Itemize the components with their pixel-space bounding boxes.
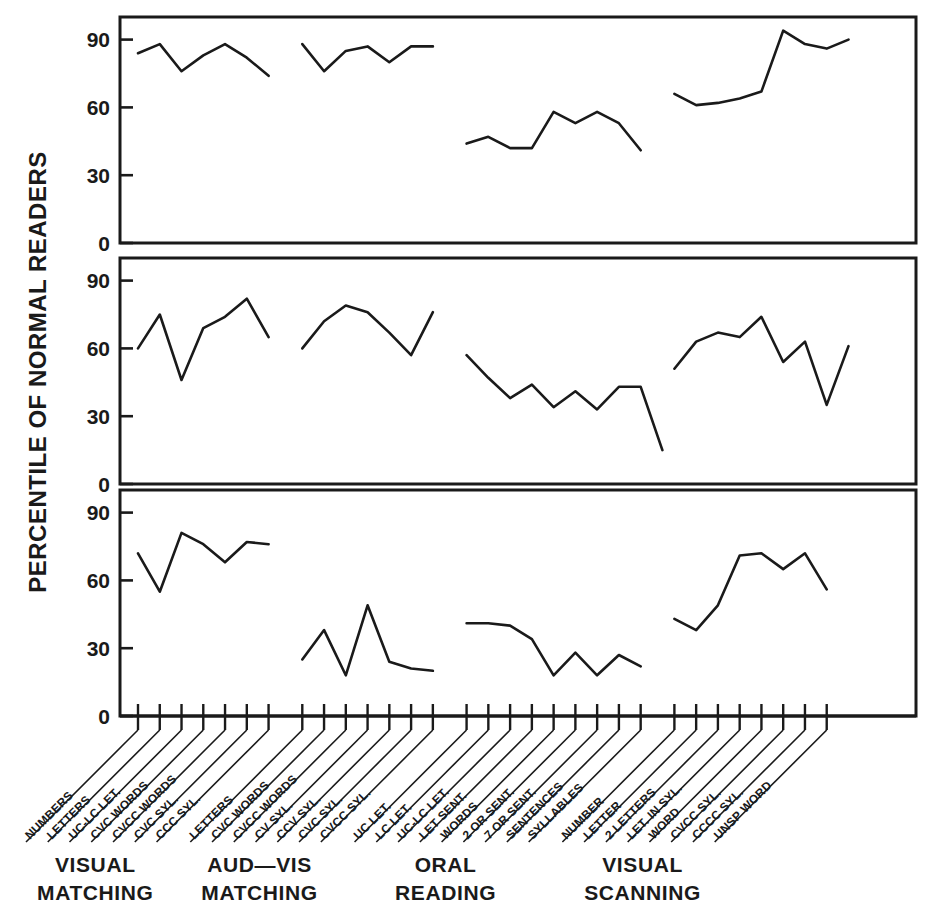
panel-frame-1 <box>120 17 916 243</box>
data-line-panel3-group1 <box>138 533 269 592</box>
data-line-panel1-group4 <box>674 31 848 106</box>
data-line-panel2-group1 <box>138 299 269 380</box>
group-label-4: VISUALSCANNING <box>584 853 701 904</box>
group-label-line1: ORAL <box>415 853 477 876</box>
group-label-line2: SCANNING <box>584 881 701 904</box>
data-line-panel3-group3 <box>467 623 641 675</box>
x-axis: NUMBERSLETTERSUC-LC LET.CVC WORDSCVCC WO… <box>22 704 916 842</box>
data-line-panel3-group2 <box>302 605 433 675</box>
group-labels: VISUALMATCHINGAUD—VISMATCHINGORALREADING… <box>37 853 701 904</box>
y-tick-label: 90 <box>87 28 110 51</box>
data-line-panel1-group1 <box>138 44 269 76</box>
group-label-line2: READING <box>395 881 496 904</box>
y-tick-label: 60 <box>87 569 110 592</box>
y-tick-label: 60 <box>87 337 110 360</box>
data-line-panel1-group3 <box>467 112 641 150</box>
group-label-line1: AUD—VIS <box>207 853 312 876</box>
group-label-line2: MATCHING <box>37 881 153 904</box>
y-tick-label: 90 <box>87 269 110 292</box>
chart-root: PERCENTILE OF NORMAL READERS 03060900306… <box>0 0 940 920</box>
y-tick-label: 0 <box>98 232 110 255</box>
group-label-1: VISUALMATCHING <box>37 853 153 904</box>
data-line-panel1-group2 <box>302 44 433 71</box>
line-chart-svg: 030609003060900306090 NUMBERSLETTERSUC-L… <box>0 0 940 920</box>
panel-frame-2 <box>120 258 916 484</box>
panel-frame-3 <box>120 490 916 716</box>
data-line-panel2-group3 <box>467 355 663 450</box>
group-label-line2: MATCHING <box>201 881 317 904</box>
data-line-panel2-group2 <box>302 306 433 356</box>
data-line-panel2-group4 <box>674 317 848 405</box>
group-label-line1: VISUAL <box>55 853 136 876</box>
y-tick-label: 0 <box>98 705 110 728</box>
y-tick-label: 30 <box>87 637 110 660</box>
y-tick-label: 30 <box>87 405 110 428</box>
group-label-2: AUD—VISMATCHING <box>201 853 317 904</box>
y-tick-label: 0 <box>98 473 110 496</box>
y-tick-label: 30 <box>87 164 110 187</box>
y-tick-label: 60 <box>87 96 110 119</box>
y-tick-label: 90 <box>87 501 110 524</box>
panel-group: 030609003060900306090 <box>87 17 916 728</box>
group-label-line1: VISUAL <box>602 853 683 876</box>
data-line-panel3-group4 <box>674 553 826 630</box>
group-label-3: ORALREADING <box>395 853 496 904</box>
